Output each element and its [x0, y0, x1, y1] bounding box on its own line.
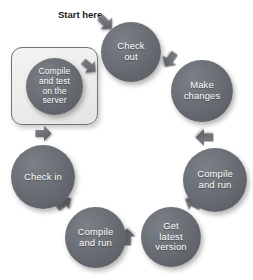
arrow-check-in-to-compile-test-icon [34, 124, 53, 143]
node-label-compile-and-run-right: Compile and run [194, 169, 236, 190]
arrow-make-changes-to-compile-run-icon [194, 127, 215, 148]
node-label-compile-and-test-on-the-server: Compile and test on the server [36, 67, 74, 105]
node-compile-and-test-on-the-server[interactable]: Compile and test on the server [26, 58, 83, 115]
node-label-check-in: Check in [21, 172, 65, 183]
node-compile-and-run-left[interactable]: Compile and run [65, 207, 126, 268]
node-compile-and-run-right[interactable]: Compile and run [183, 148, 247, 212]
workflow-cycle-diagram: Start here Check outMake changesCompile … [0, 0, 253, 280]
node-get-latest-version[interactable]: Get latest version [141, 207, 201, 267]
node-make-changes[interactable]: Make changes [171, 60, 233, 122]
node-check-out[interactable]: Check out [101, 22, 161, 82]
node-label-make-changes: Make changes [181, 80, 224, 101]
node-check-in[interactable]: Check in [11, 145, 75, 209]
node-label-compile-and-run-left: Compile and run [75, 227, 117, 248]
node-label-check-out: Check out [114, 41, 147, 62]
node-label-get-latest-version: Get latest version [152, 221, 189, 253]
